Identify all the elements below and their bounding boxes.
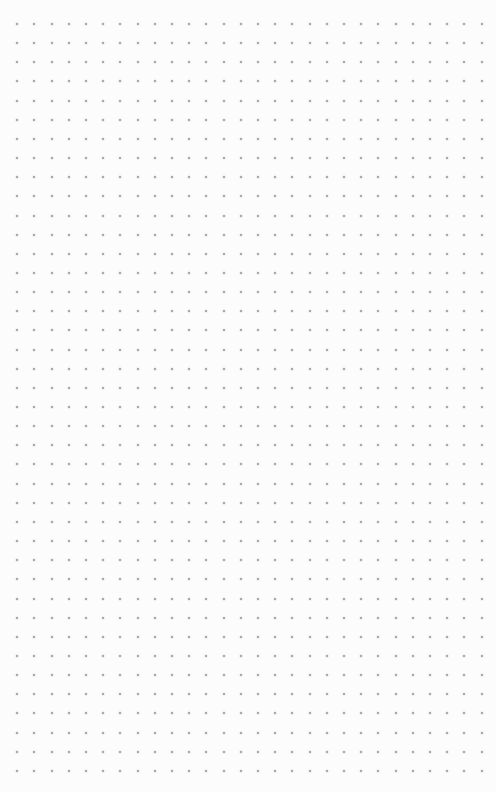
grid-dot bbox=[16, 540, 18, 542]
grid-dot bbox=[481, 444, 483, 446]
grid-dot bbox=[377, 559, 379, 561]
grid-dot bbox=[360, 444, 362, 446]
grid-dot bbox=[154, 61, 156, 63]
grid-dot bbox=[429, 253, 431, 255]
grid-dot bbox=[154, 406, 156, 408]
grid-dot bbox=[309, 655, 311, 657]
grid-dot bbox=[274, 559, 276, 561]
grid-dot bbox=[171, 636, 173, 638]
grid-dot bbox=[257, 42, 259, 44]
grid-dot bbox=[343, 693, 345, 695]
grid-dot bbox=[68, 751, 70, 753]
grid-dot bbox=[188, 425, 190, 427]
grid-dot bbox=[291, 329, 293, 331]
grid-dot bbox=[463, 732, 465, 734]
grid-dot bbox=[240, 61, 242, 63]
grid-dot bbox=[171, 157, 173, 159]
grid-dot bbox=[240, 617, 242, 619]
grid-dot bbox=[360, 751, 362, 753]
grid-dot bbox=[154, 655, 156, 657]
grid-dot bbox=[291, 617, 293, 619]
grid-dot bbox=[274, 578, 276, 580]
dot-grid-canvas[interactable]: Blank dot-grid page bbox=[0, 0, 496, 792]
grid-dot bbox=[33, 521, 35, 523]
grid-dot bbox=[481, 100, 483, 102]
grid-dot bbox=[16, 368, 18, 370]
grid-dot bbox=[343, 387, 345, 389]
grid-dot bbox=[16, 483, 18, 485]
grid-dot bbox=[446, 349, 448, 351]
grid-dot bbox=[446, 176, 448, 178]
grid-dot bbox=[223, 502, 225, 504]
grid-dot bbox=[85, 100, 87, 102]
grid-dot bbox=[205, 61, 207, 63]
grid-dot bbox=[326, 406, 328, 408]
grid-dot bbox=[429, 349, 431, 351]
grid-dot bbox=[343, 540, 345, 542]
grid-dot bbox=[223, 732, 225, 734]
grid-dot bbox=[171, 291, 173, 293]
grid-dot bbox=[223, 23, 225, 25]
grid-dot bbox=[429, 732, 431, 734]
grid-dot bbox=[309, 540, 311, 542]
grid-dot bbox=[446, 770, 448, 772]
grid-dot bbox=[429, 387, 431, 389]
grid-dot bbox=[154, 732, 156, 734]
grid-dot bbox=[119, 693, 121, 695]
grid-dot bbox=[137, 176, 139, 178]
grid-dot bbox=[154, 693, 156, 695]
grid-dot bbox=[481, 80, 483, 82]
grid-dot bbox=[377, 578, 379, 580]
grid-dot bbox=[223, 176, 225, 178]
grid-dot bbox=[326, 425, 328, 427]
grid-dot bbox=[33, 732, 35, 734]
grid-dot bbox=[51, 291, 53, 293]
grid-dot bbox=[16, 138, 18, 140]
grid-dot bbox=[446, 80, 448, 82]
grid-dot bbox=[429, 598, 431, 600]
grid-dot bbox=[33, 368, 35, 370]
grid-dot bbox=[188, 540, 190, 542]
grid-dot bbox=[171, 502, 173, 504]
grid-dot bbox=[205, 157, 207, 159]
grid-dot bbox=[68, 521, 70, 523]
grid-dot bbox=[119, 406, 121, 408]
grid-dot bbox=[119, 617, 121, 619]
grid-dot bbox=[205, 368, 207, 370]
grid-dot bbox=[446, 712, 448, 714]
grid-dot bbox=[16, 272, 18, 274]
grid-dot bbox=[377, 598, 379, 600]
grid-dot bbox=[481, 693, 483, 695]
grid-dot bbox=[68, 425, 70, 427]
grid-dot bbox=[429, 617, 431, 619]
grid-dot bbox=[223, 253, 225, 255]
grid-dot bbox=[377, 100, 379, 102]
grid-dot bbox=[51, 578, 53, 580]
grid-dot bbox=[395, 463, 397, 465]
grid-dot bbox=[16, 636, 18, 638]
grid-dot bbox=[205, 674, 207, 676]
grid-dot bbox=[463, 770, 465, 772]
grid-dot bbox=[223, 444, 225, 446]
grid-dot bbox=[223, 674, 225, 676]
grid-dot bbox=[463, 80, 465, 82]
grid-dot bbox=[33, 425, 35, 427]
grid-dot bbox=[412, 368, 414, 370]
grid-dot bbox=[33, 483, 35, 485]
grid-dot bbox=[429, 119, 431, 121]
grid-dot bbox=[463, 176, 465, 178]
grid-dot bbox=[274, 540, 276, 542]
grid-dot bbox=[395, 540, 397, 542]
grid-dot bbox=[51, 215, 53, 217]
grid-dot bbox=[33, 329, 35, 331]
grid-dot bbox=[446, 253, 448, 255]
grid-dot bbox=[68, 291, 70, 293]
grid-dot bbox=[481, 578, 483, 580]
grid-dot bbox=[481, 329, 483, 331]
grid-dot bbox=[240, 712, 242, 714]
grid-dot bbox=[360, 406, 362, 408]
grid-dot bbox=[240, 176, 242, 178]
grid-dot bbox=[481, 598, 483, 600]
grid-dot bbox=[326, 80, 328, 82]
grid-dot bbox=[85, 732, 87, 734]
